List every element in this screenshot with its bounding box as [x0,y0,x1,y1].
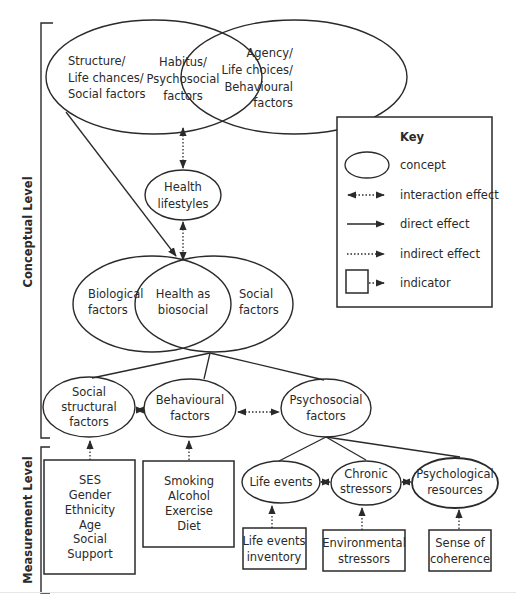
svg-text:Diet: Diet [177,519,201,533]
svg-text:structural: structural [61,400,117,414]
link-health-social-structural [92,353,210,378]
indicator-social-structural: SES Gender Ethnicity Age Social Support [44,460,135,574]
svg-text:Gender: Gender [69,488,112,502]
svg-text:Sense of: Sense of [435,536,485,550]
indicator-sense-of-coherence: Sense of coherence [429,530,491,571]
svg-text:Behavioural: Behavioural [224,80,293,94]
svg-text:Age: Age [79,518,101,532]
svg-text:factors: factors [88,303,128,317]
svg-text:interaction effect: interaction effect [400,188,499,202]
concept-health-as-biosocial: Health as biosocial [156,287,210,317]
svg-text:Agency/: Agency/ [246,46,293,60]
concept-habitus-psychosocial: Habitus/ Psychosocial factors [147,55,220,103]
conceptual-level-label: Conceptual Level [21,176,35,287]
svg-text:Life chances/: Life chances/ [68,71,144,85]
svg-text:biosocial: biosocial [158,303,208,317]
link-psychosocial-resources [326,437,460,457]
concept-behavioural-factors: Behavioural factors [144,379,236,437]
concept-chronic-stressors: Chronic stressors [331,461,401,505]
link-psychosocial-life-events [279,437,326,461]
page-divider [0,592,516,593]
svg-text:factors: factors [306,409,346,423]
indicator-box-icon [346,270,368,293]
svg-text:concept: concept [400,158,446,172]
svg-text:Habitus/: Habitus/ [159,55,207,69]
svg-text:Structure/: Structure/ [68,54,125,68]
svg-text:Psychosocial: Psychosocial [290,393,363,407]
svg-text:Life choices/: Life choices/ [222,63,294,77]
svg-text:Health as: Health as [156,287,210,301]
link-health-psychosocial [210,353,324,380]
indicator-behavioural: Smoking Alcohol Exercise Diet [143,461,234,547]
link-health-behavioural [204,353,210,379]
svg-text:Social factors: Social factors [68,87,145,101]
indicator-environmental-stressors: Environmental stressors [322,530,406,571]
svg-text:coherence: coherence [430,552,490,566]
svg-text:Life events: Life events [249,475,312,489]
measurement-level-label: Measurement Level [21,456,35,583]
svg-text:Social: Social [239,287,273,301]
svg-text:factors: factors [170,409,210,423]
svg-text:Life events: Life events [242,534,305,548]
legend-title: Key [400,130,425,144]
svg-text:factors: factors [239,303,279,317]
svg-text:factors: factors [69,415,109,429]
svg-text:Social: Social [73,532,107,546]
svg-text:direct effect: direct effect [400,217,470,231]
svg-text:indirect effect: indirect effect [400,247,480,261]
concept-psychological-resources: Psychological resources [412,458,498,508]
svg-text:Chronic: Chronic [344,467,388,481]
svg-text:Environmental: Environmental [322,536,406,550]
concept-life-events: Life events [242,461,320,503]
svg-text:Health: Health [164,180,202,194]
svg-text:Psychosocial: Psychosocial [147,72,220,86]
concept-health-lifestyles: Health lifestyles [145,170,221,220]
svg-text:stressors: stressors [340,482,392,496]
svg-text:Support: Support [67,547,113,561]
svg-text:stressors: stressors [338,552,390,566]
svg-text:factors: factors [163,89,203,103]
svg-text:Exercise: Exercise [165,504,213,518]
biosocial-health-diagram: Conceptual Level Measurement Level Struc… [0,0,516,608]
svg-text:Ethnicity: Ethnicity [65,503,116,517]
svg-text:lifestyles: lifestyles [157,197,208,211]
svg-text:indicator: indicator [400,276,451,290]
svg-text:Psychological: Psychological [416,467,493,481]
concept-social-structural-factors: Social structural factors [43,377,135,437]
svg-text:SES: SES [79,473,101,487]
concept-psychosocial-factors: Psychosocial factors [281,379,371,437]
svg-text:factors: factors [253,96,293,110]
svg-text:Alcohol: Alcohol [168,489,210,503]
svg-text:Social: Social [72,385,106,399]
svg-text:Behavioural: Behavioural [156,393,225,407]
svg-text:resources: resources [427,483,483,497]
indicator-life-events-inventory: Life events inventory [242,528,306,569]
svg-text:inventory: inventory [247,550,302,564]
svg-text:Smoking: Smoking [164,474,214,488]
